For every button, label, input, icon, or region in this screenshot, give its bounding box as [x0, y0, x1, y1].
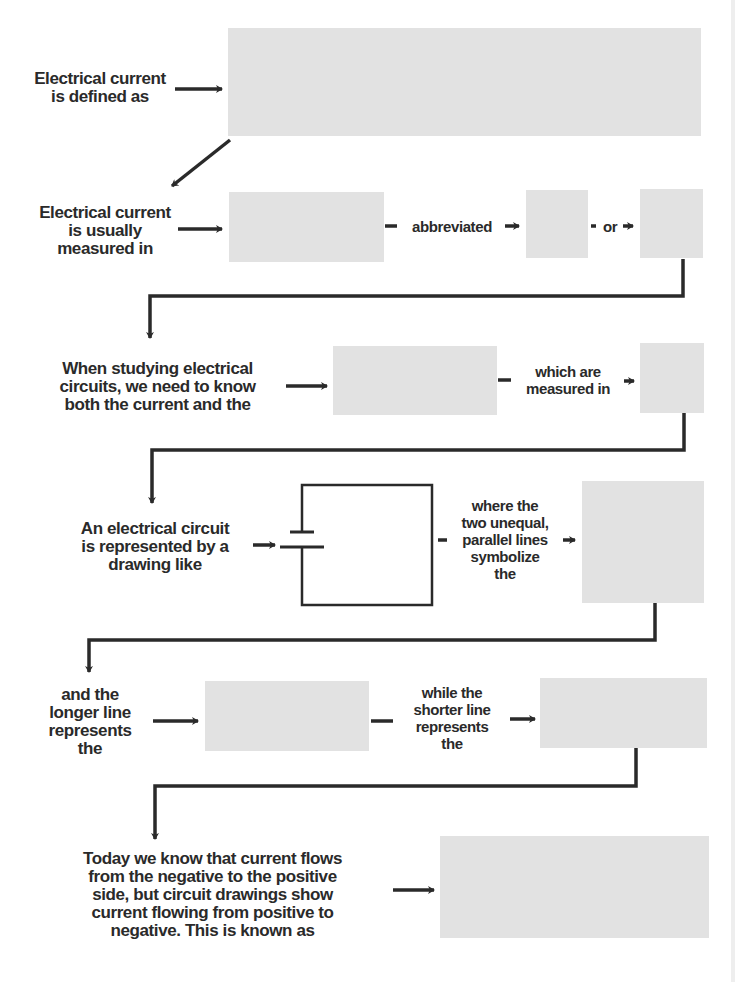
answer-box-shorter-line[interactable]: [540, 678, 707, 748]
elbow-arrow-icon: [150, 259, 683, 338]
connector-label-or: or: [598, 218, 622, 235]
connector-line: parallel lines: [448, 531, 562, 548]
step-1-prompt: Electrical current is defined as: [20, 70, 180, 106]
prompt-line: and the: [30, 686, 150, 704]
prompt-line: is defined as: [20, 88, 180, 106]
elbow-arrow-icon: [155, 748, 636, 839]
connector-label-measured-in: which are measured in: [512, 363, 624, 397]
prompt-line: negative. This is known as: [40, 922, 385, 940]
prompt-line: drawing like: [55, 556, 255, 574]
connector-line: shorter line: [398, 701, 506, 718]
prompt-line: from the negative to the positive: [40, 868, 385, 886]
prompt-line: When studying electrical: [30, 360, 285, 378]
connector-line: the: [398, 735, 506, 752]
answer-box-definition[interactable]: [228, 28, 701, 136]
step-3-prompt: When studying electrical circuits, we ne…: [30, 360, 285, 414]
connector-line: two unequal,: [448, 514, 562, 531]
connector-line: represents: [398, 718, 506, 735]
connector-line: which are: [512, 363, 624, 380]
step-4-prompt: An electrical circuit is represented by …: [55, 520, 255, 574]
circuit-diagram-icon: [280, 485, 432, 605]
connector-label-symbolize: where the two unequal, parallel lines sy…: [448, 497, 562, 582]
elbow-arrow-icon: [89, 603, 655, 672]
prompt-line: longer line: [30, 704, 150, 722]
prompt-line: An electrical circuit: [55, 520, 255, 538]
prompt-line: Electrical current: [20, 70, 180, 88]
prompt-line: measured in: [20, 240, 190, 258]
prompt-line: the: [30, 740, 150, 758]
answer-box-battery-symbol[interactable]: [582, 481, 704, 603]
prompt-line: represents: [30, 722, 150, 740]
prompt-line: circuits, we need to know: [30, 378, 285, 396]
connector-label-abbreviated: abbreviated: [399, 218, 505, 235]
prompt-line: current flowing from positive to: [40, 904, 385, 922]
connector-line: while the: [398, 684, 506, 701]
arrow-diagonal-icon: [172, 140, 230, 186]
answer-box-longer-line[interactable]: [205, 681, 369, 751]
connector-line: symbolize: [448, 548, 562, 565]
step-6-prompt: Today we know that current flows from th…: [40, 850, 385, 940]
answer-box-abbreviation-2[interactable]: [640, 189, 703, 258]
answer-box-abbreviation-1[interactable]: [526, 190, 588, 258]
answer-box-quantity-unit[interactable]: [640, 343, 704, 413]
connector-line: where the: [448, 497, 562, 514]
connector-label-shorter-line: while the shorter line represents the: [398, 684, 506, 752]
answer-box-unit[interactable]: [229, 192, 384, 262]
connector-line: measured in: [512, 380, 624, 397]
connector-line: the: [448, 565, 562, 582]
answer-box-quantity[interactable]: [333, 346, 497, 415]
answer-box-conventional-current[interactable]: [440, 836, 709, 938]
step-5-prompt: and the longer line represents the: [30, 686, 150, 758]
step-2-prompt: Electrical current is usually measured i…: [20, 204, 190, 258]
prompt-line: both the current and the: [30, 396, 285, 414]
prompt-line: is represented by a: [55, 538, 255, 556]
prompt-line: Electrical current: [20, 204, 190, 222]
prompt-line: side, but circuit drawings show: [40, 886, 385, 904]
prompt-line: Today we know that current flows: [40, 850, 385, 868]
prompt-line: is usually: [20, 222, 190, 240]
